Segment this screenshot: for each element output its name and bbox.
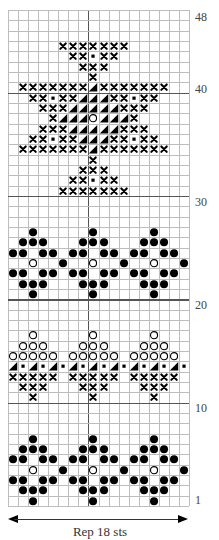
cross-icon — [99, 82, 109, 92]
open-circle-icon — [149, 351, 159, 361]
open-circle-icon — [88, 341, 98, 351]
gridline-heavy-h — [8, 299, 189, 300]
row-label-40: 40 — [195, 83, 207, 95]
open-circle-icon — [28, 465, 38, 475]
arrow-right-icon — [178, 515, 188, 523]
filled-dot-icon — [68, 454, 78, 464]
filled-dot-icon — [99, 237, 109, 247]
cross-icon — [139, 382, 149, 392]
filled-dot-icon — [68, 475, 78, 485]
cross-icon — [109, 144, 119, 154]
filled-dot-icon — [169, 268, 179, 278]
filled-dot-icon — [139, 268, 149, 278]
filled-dot-icon — [129, 248, 139, 258]
cross-icon — [68, 51, 78, 61]
cross-icon — [159, 144, 169, 154]
gridline-h — [8, 217, 189, 218]
filled-dot-icon — [48, 248, 58, 258]
cross-icon — [48, 82, 58, 92]
square-icon — [129, 134, 139, 144]
gridline-h — [8, 206, 189, 207]
filled-dot-icon — [18, 485, 28, 495]
filled-dot-icon — [119, 258, 129, 268]
cross-icon — [88, 41, 98, 51]
filled-dot-icon — [88, 289, 98, 299]
triangle-icon — [88, 144, 98, 154]
square-icon — [129, 93, 139, 103]
cross-icon — [109, 372, 119, 382]
filled-dot-icon — [38, 485, 48, 495]
cross-icon — [129, 124, 139, 134]
cross-icon — [68, 93, 78, 103]
square-icon — [58, 361, 68, 371]
cross-icon — [119, 82, 129, 92]
gridline-h — [8, 310, 189, 311]
filled-dot-icon — [18, 475, 28, 485]
filled-dot-icon — [78, 444, 88, 454]
cross-icon — [8, 372, 18, 382]
filled-dot-icon — [99, 485, 109, 495]
cross-icon — [18, 144, 28, 154]
cross-icon — [99, 41, 109, 51]
filled-dot-icon — [149, 485, 159, 495]
cross-icon — [88, 155, 98, 165]
gridline-h — [8, 31, 189, 32]
filled-dot-icon — [159, 485, 169, 495]
cross-icon — [129, 103, 139, 113]
gridline-h — [8, 10, 189, 11]
filled-dot-icon — [38, 475, 48, 485]
cross-icon — [99, 372, 109, 382]
cross-icon — [78, 372, 88, 382]
triangle-icon — [99, 134, 109, 144]
cross-icon — [58, 41, 68, 51]
filled-dot-icon — [58, 465, 68, 475]
open-circle-icon — [149, 258, 159, 268]
cross-icon — [48, 372, 58, 382]
filled-dot-icon — [159, 248, 169, 258]
filled-dot-icon — [38, 237, 48, 247]
cross-icon — [78, 62, 88, 72]
filled-dot-icon — [109, 268, 119, 278]
cross-icon — [38, 82, 48, 92]
open-circle-icon — [149, 341, 159, 351]
cross-icon — [139, 93, 149, 103]
triangle-icon — [58, 113, 68, 123]
cross-icon — [139, 372, 149, 382]
cross-icon — [68, 372, 78, 382]
cross-icon — [18, 372, 28, 382]
square-icon — [38, 361, 48, 371]
filled-dot-icon — [139, 248, 149, 258]
cross-icon — [78, 51, 88, 61]
open-circle-icon — [99, 351, 109, 361]
cross-icon — [78, 82, 88, 92]
cross-icon — [159, 82, 169, 92]
square-icon — [18, 361, 28, 371]
triangle-icon — [88, 134, 98, 144]
cross-icon — [68, 186, 78, 196]
square-icon — [179, 361, 189, 371]
cross-icon — [48, 144, 58, 154]
cross-icon — [99, 186, 109, 196]
filled-dot-icon — [109, 454, 119, 464]
row-label-48: 48 — [195, 11, 207, 23]
cross-icon — [149, 93, 159, 103]
triangle-icon — [99, 124, 109, 134]
cross-icon — [129, 144, 139, 154]
filled-dot-icon — [38, 279, 48, 289]
triangle-icon — [8, 361, 18, 371]
cross-icon — [99, 144, 109, 154]
filled-dot-icon — [78, 454, 88, 464]
filled-dot-icon — [58, 258, 68, 268]
cross-icon — [28, 82, 38, 92]
filled-dot-icon — [18, 279, 28, 289]
open-circle-icon — [99, 341, 109, 351]
open-circle-icon — [48, 351, 58, 361]
gridline-h — [8, 423, 189, 424]
open-circle-icon — [88, 351, 98, 361]
cross-icon — [149, 134, 159, 144]
cross-icon — [28, 392, 38, 402]
filled-dot-icon — [109, 248, 119, 258]
filled-dot-icon — [28, 289, 38, 299]
filled-dot-icon — [8, 475, 18, 485]
gridline-h — [8, 320, 189, 321]
